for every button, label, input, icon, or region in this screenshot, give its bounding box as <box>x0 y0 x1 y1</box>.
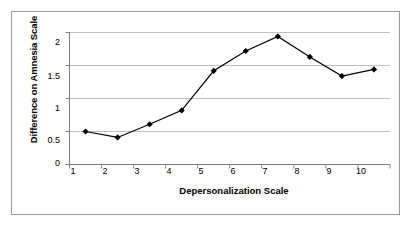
data-point-2 <box>114 134 120 140</box>
data-point-10 <box>371 66 377 72</box>
data-series-line <box>86 36 374 137</box>
chart-canvas <box>12 12 401 216</box>
chart-plot-area: Difference on Amnesia Scale Depersonaliz… <box>12 12 401 216</box>
data-markers <box>82 33 377 140</box>
data-point-1 <box>82 128 88 134</box>
data-point-8 <box>307 54 313 60</box>
axes <box>66 32 391 169</box>
data-point-7 <box>275 33 281 39</box>
data-point-9 <box>339 73 345 79</box>
data-point-3 <box>147 121 153 127</box>
data-point-6 <box>243 48 249 54</box>
gridlines <box>69 33 390 165</box>
chart-frame: Difference on Amnesia Scale Depersonaliz… <box>11 11 400 215</box>
